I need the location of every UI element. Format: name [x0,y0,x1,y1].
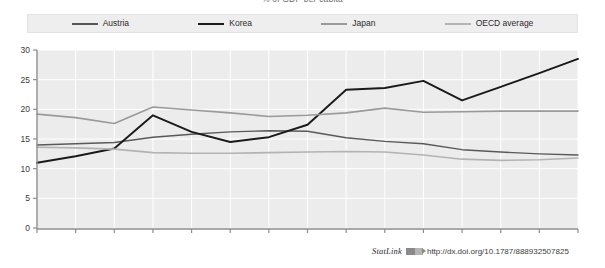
legend-swatch-icon [321,23,347,25]
legend-label: Japan [352,19,375,28]
legend-item-japan[interactable]: Japan [321,19,375,28]
legend-label: Korea [229,19,252,28]
y-tick-label: 10 [21,164,31,174]
y-tick-label: 5 [25,193,30,203]
statlink[interactable]: StatLink http://dx.doi.org/10.1787/88893… [372,246,569,256]
statlink-label: StatLink [372,246,402,256]
y-tick-label: 15 [21,134,31,144]
legend-item-korea[interactable]: Korea [198,19,252,28]
legend-swatch-icon [72,23,98,25]
y-tick-label: 20 [21,104,31,114]
y-tick-label: 0 [25,223,30,233]
legend-label: Austria [103,19,129,28]
chart-figure: % of GDP per capita AustriaKoreaJapanOEC… [0,0,605,268]
legend-label: OECD average [476,19,534,28]
line-chart-plot: 0510152025301995199619971998199920002001… [0,33,605,233]
legend-item-austria[interactable]: Austria [72,19,129,28]
legend-item-oecd-average[interactable]: OECD average [445,19,534,28]
statlink-url[interactable]: http://dx.doi.org/10.1787/888932507825 [427,247,569,256]
legend-swatch-icon [198,23,224,25]
chart-legend: AustriaKoreaJapanOECD average [27,14,578,33]
y-tick-label: 30 [21,45,31,55]
statlink-arrow-icon [406,248,423,255]
chart-title: % of GDP per capita [0,0,605,2]
legend-swatch-icon [445,23,471,25]
y-tick-label: 25 [21,75,31,85]
